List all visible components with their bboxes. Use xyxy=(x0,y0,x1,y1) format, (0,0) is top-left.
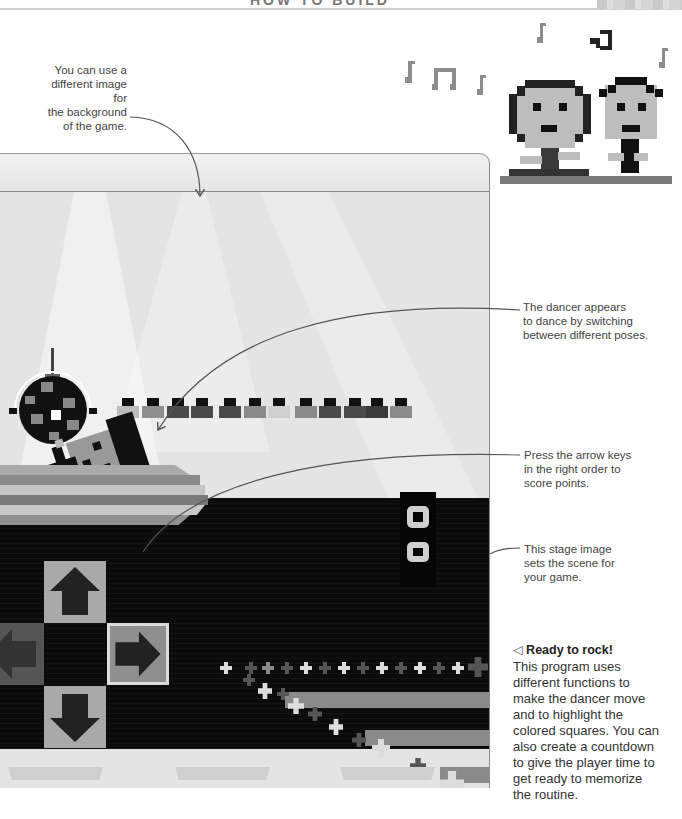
caption-body: This program uses different functions to… xyxy=(513,659,682,803)
page-tab-marker xyxy=(597,0,682,9)
annotation-line: your game. xyxy=(524,570,682,584)
annotation-arrow-keys: Press the arrow keys in the right order … xyxy=(524,448,682,490)
caption-line: get ready to memorize xyxy=(513,771,682,787)
game-window[interactable] xyxy=(0,153,490,788)
audience-figure xyxy=(268,398,290,418)
annotation-line: sets the scene for xyxy=(524,556,682,570)
caption-line: colored squares. You can xyxy=(513,723,682,739)
speaker-icon xyxy=(400,492,436,587)
annotation-background: You can use a different image for the ba… xyxy=(40,63,127,133)
audience-figure xyxy=(344,398,366,418)
right-arrow-icon xyxy=(110,626,166,682)
caption-line: and to highlight the xyxy=(513,707,682,723)
platform-layer xyxy=(0,465,190,475)
pixel-characters-illustration xyxy=(500,75,680,190)
left-triangle-icon: ◁ xyxy=(513,643,523,657)
annotation-line: the background xyxy=(40,105,127,119)
annotation-line: score points. xyxy=(524,476,682,490)
arrow-tile-down[interactable] xyxy=(44,686,106,748)
platform-layer xyxy=(0,475,200,485)
audience-figure xyxy=(366,398,388,418)
caption-line: different functions to xyxy=(513,675,682,691)
annotation-line: This stage image xyxy=(524,542,682,556)
annotation-line: of the game. xyxy=(40,119,127,133)
page-header: HOW TO BUILD xyxy=(0,0,682,10)
left-arrow-icon xyxy=(0,623,44,685)
audience-figure xyxy=(319,398,341,418)
platform-layer xyxy=(0,515,190,525)
caption-line: also create a countdown xyxy=(513,739,682,755)
caption-line: the routine. xyxy=(513,787,682,803)
audience-figure xyxy=(167,398,189,418)
down-arrow-icon xyxy=(44,686,106,748)
lane-bar xyxy=(285,692,490,708)
audience-figure xyxy=(390,398,412,418)
audience-figure xyxy=(219,398,241,418)
annotation-stage: This stage image sets the scene for your… xyxy=(524,542,682,584)
caption-line: This program uses xyxy=(513,659,682,675)
arrow-tile-right-active[interactable] xyxy=(107,623,169,685)
caption-line: make the dancer move xyxy=(513,691,682,707)
annotation-line: The dancer appears xyxy=(523,300,682,314)
caption-heading: ◁ Ready to rock! xyxy=(513,642,682,657)
page-header-title: HOW TO BUILD xyxy=(250,0,390,8)
dance-pad xyxy=(340,767,435,780)
caption-title: Ready to rock! xyxy=(526,643,613,657)
audience-figure xyxy=(295,398,317,418)
platform-layer xyxy=(0,495,208,505)
dance-pad xyxy=(8,767,103,780)
game-window-titlebar[interactable] xyxy=(0,153,489,192)
annotation-line: in the right order to xyxy=(524,462,682,476)
annotation-line: between different poses. xyxy=(523,328,682,342)
annotation-line: to dance by switching xyxy=(523,314,682,328)
dance-pad xyxy=(175,767,270,780)
annotation-dancer: The dancer appears to dance by switching… xyxy=(523,300,682,342)
audience-figure xyxy=(244,398,266,418)
caption-line: to give the player time to xyxy=(513,755,682,771)
arrow-tile-left[interactable] xyxy=(0,623,44,685)
platform-layer xyxy=(0,505,205,515)
up-arrow-icon xyxy=(44,561,106,623)
spotlight-beam xyxy=(260,192,490,522)
annotation-line: You can use a xyxy=(40,63,127,77)
caption-block: ◁ Ready to rock! This program uses diffe… xyxy=(513,642,682,803)
audience-figure xyxy=(191,398,213,418)
platform-layer xyxy=(0,485,205,495)
arrow-tile-up[interactable] xyxy=(44,561,106,623)
annotation-line: Press the arrow keys xyxy=(524,448,682,462)
annotation-line: different image for xyxy=(40,77,127,105)
